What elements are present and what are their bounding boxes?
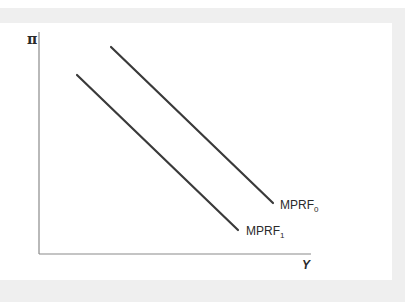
mprf0-label-name: MPRF <box>280 198 314 212</box>
mprf0-label: MPRF0 <box>280 198 318 214</box>
mprf1-curve <box>77 75 238 230</box>
mprf1-label-name: MPRF <box>246 224 280 238</box>
diagram-plot <box>0 0 419 302</box>
x-axis-label: Y <box>302 258 310 272</box>
mprf0-curve <box>111 47 273 203</box>
y-axis-label: π <box>27 31 37 47</box>
mprf1-label: MPRF1 <box>246 224 284 240</box>
mprf1-label-subscript: 1 <box>280 231 284 240</box>
mprf0-label-subscript: 0 <box>314 205 318 214</box>
